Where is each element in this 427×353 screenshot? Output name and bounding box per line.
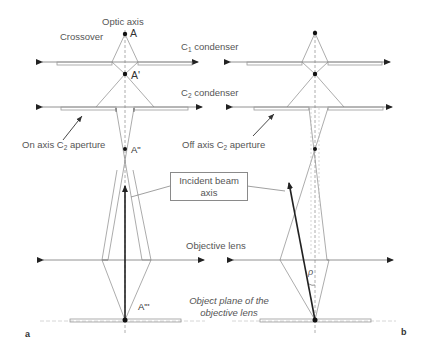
incident-beam-line1: Incident beam [171,175,247,187]
c1-suffix: condenser [192,41,239,52]
panel-label-a: a [25,330,30,339]
c2-plate-right [134,107,188,110]
incident-pointer-b [247,186,285,191]
point-A [123,32,127,36]
c2-plate-left [61,107,116,110]
point-A-triple-prime [123,318,128,323]
c1-plate-left [57,62,112,65]
crossover-label: Crossover [60,32,103,42]
c2-prefix: C [181,87,188,98]
object-plane-line2: objective lens [170,308,288,318]
incident-beam-line2: axis [171,187,247,199]
panel-b [230,30,396,333]
incident-beam-axis-box: Incident beam axis [170,172,248,201]
on-axis-suffix: aperture [67,139,105,150]
on-axis-pointer [63,116,82,140]
optic-axis-label: Optic axis [102,17,144,27]
rho-angle-arc [309,284,315,285]
point-A-double-prime [123,147,127,151]
rho-label: ρ [308,268,313,277]
c1-condenser-label: C1 condenser [181,42,239,54]
off-axis-suffix: aperture [227,139,265,150]
off-axis-pointer [253,114,274,136]
object-plane-line1: Object plane of the [170,296,288,306]
c2-suffix: condenser [192,87,239,98]
on-axis-aperture-label: On axis C2 aperture [22,140,105,152]
on-axis-prefix: On axis C [22,139,64,150]
c1-plate-right [138,62,192,65]
point-A-double-prime-label: A" [131,145,141,155]
object-plane-label: Object plane of the objective lens [170,296,288,317]
incident-beam-arrow-b [289,183,315,320]
point-A-label: A [130,28,137,39]
off-axis-aperture-label: Off axis C2 aperture [182,140,265,152]
objective-lens-label: Objective lens [186,241,246,251]
point-A-prime [123,72,127,76]
off-axis-prefix: Off axis C [182,139,224,150]
panel-label-b: b [401,328,407,337]
c1-prefix: C [181,41,188,52]
point-A-triple-prime-label: A"' [138,302,150,312]
point-A-prime-label: A' [131,70,140,81]
c2-condenser-label: C2 condenser [181,88,239,100]
